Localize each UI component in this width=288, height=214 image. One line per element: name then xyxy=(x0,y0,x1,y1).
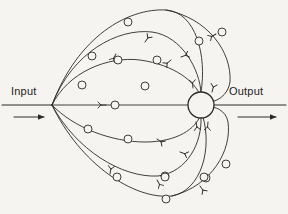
node-circle xyxy=(200,173,208,181)
node-circle xyxy=(84,125,92,133)
node-circle xyxy=(124,135,132,143)
branch-stub-mark xyxy=(143,34,153,44)
branch-stub-mark xyxy=(179,149,189,157)
branch-stub-mark xyxy=(198,184,208,194)
branch-path-upper-inner xyxy=(52,59,200,105)
branch-stub-mark xyxy=(209,83,217,92)
branch-stub-mark xyxy=(107,166,114,175)
node-circle xyxy=(161,173,169,181)
figure-root: Input Output xyxy=(0,0,288,214)
output-label: Output xyxy=(229,86,263,97)
branch-path-lower-outer xyxy=(52,105,206,196)
node-circle xyxy=(114,56,122,64)
node-circle xyxy=(195,37,203,45)
node-circle xyxy=(222,160,230,168)
node-circle xyxy=(113,173,121,181)
central-hub-circle xyxy=(188,92,214,118)
node-circle xyxy=(153,56,161,64)
input-label: Input xyxy=(11,86,36,97)
node-circle xyxy=(218,28,226,36)
diagram-canvas xyxy=(0,0,288,214)
node-circle xyxy=(124,18,132,26)
branch-path-upper-mid xyxy=(52,32,201,105)
node-circle xyxy=(162,195,170,203)
node-circle xyxy=(88,52,96,60)
branch-path-right-lower-outer xyxy=(172,107,229,196)
node-circle xyxy=(78,81,86,89)
branch-path-right-upper-outer xyxy=(166,10,230,102)
branch-stub-mark xyxy=(180,51,190,59)
node-circle xyxy=(141,82,149,90)
node-circle xyxy=(111,101,119,109)
